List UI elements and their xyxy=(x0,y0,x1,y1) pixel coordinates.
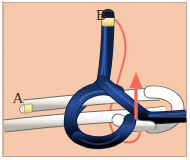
label-a: A xyxy=(13,90,24,106)
knot-diagram-figure: B A xyxy=(0,0,190,160)
navy-rope-tail-right xyxy=(148,113,186,118)
label-b: B xyxy=(96,7,106,23)
figure-background xyxy=(0,0,190,160)
knot-diagram-canvas: B A xyxy=(0,0,190,160)
